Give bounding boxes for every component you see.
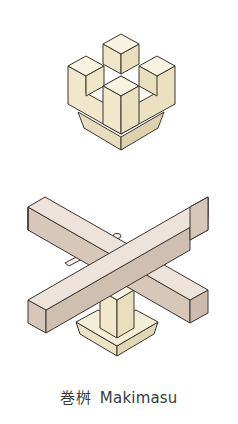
makimasu-figure: 巻桝Makimasu (0, 0, 238, 424)
crossed-beams-drawing (0, 0, 238, 370)
figure-caption: 巻桝Makimasu (0, 386, 238, 407)
caption-romaji: Makimasu (100, 389, 178, 407)
caption-japanese: 巻桝 (60, 389, 90, 407)
